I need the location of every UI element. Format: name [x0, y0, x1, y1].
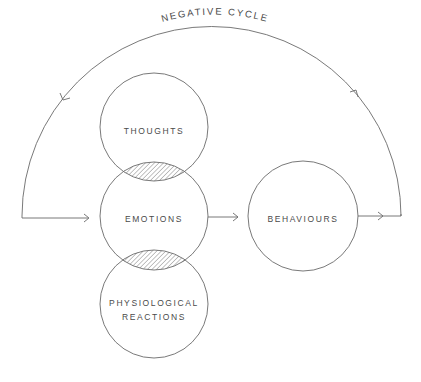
cycle-arc — [22, 27, 401, 216]
physiological-label-line2: REACTIONS — [122, 312, 186, 322]
negative-cycle-diagram: NEGATIVE CYCLE THOUGHTS EMOTIONS PHYSIOL… — [0, 0, 421, 382]
behaviours-to-cycle-connector — [358, 214, 401, 216]
arc-arrow-left-icon — [60, 93, 70, 100]
physiological-label-line1: PHYSIOLOGICAL — [109, 298, 199, 308]
emotions-label: EMOTIONS — [125, 214, 183, 224]
thoughts-label: THOUGHTS — [124, 126, 185, 136]
return-connector — [22, 216, 88, 218]
behaviours-label: BEHAVIOURS — [267, 214, 338, 224]
cycle-label: NEGATIVE CYCLE — [160, 6, 270, 24]
arc-arrow-right-icon — [350, 90, 358, 97]
